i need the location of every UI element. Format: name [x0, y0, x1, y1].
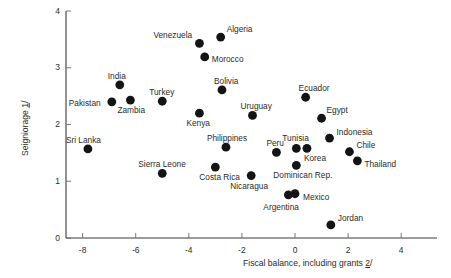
data-point-label: Uruguay	[241, 102, 272, 110]
data-point-marker	[325, 134, 334, 143]
data-point-label: Peru	[266, 139, 284, 147]
y-axis-footnote-suffix: /	[20, 101, 30, 103]
data-point-label: Egypt	[327, 106, 348, 114]
data-point-marker	[272, 148, 281, 157]
y-axis-title-text: Seigniorage	[20, 108, 30, 156]
y-tick-label: 2	[40, 120, 60, 129]
data-point-label: Pakistan	[69, 99, 101, 107]
data-point-marker	[303, 144, 312, 153]
data-point-marker	[248, 111, 257, 120]
x-tick-label: -8	[71, 246, 95, 255]
data-point-marker	[84, 145, 93, 154]
data-point-label: Bolivia	[214, 77, 238, 85]
data-point-marker	[317, 114, 326, 123]
x-tick-label: 4	[389, 246, 413, 255]
x-axis-footnote-suffix: /	[370, 258, 372, 268]
data-point-label: Thailand	[364, 160, 396, 168]
scatter-chart: 01234-8-6-4-2024 VenezuelaAlgeriaMorocco…	[0, 0, 451, 278]
data-point-marker	[107, 97, 116, 106]
data-point-label: Algeria	[227, 25, 253, 33]
data-point-marker	[222, 143, 231, 152]
data-point-marker	[158, 169, 167, 178]
axes	[66, 11, 437, 238]
data-point-marker	[115, 80, 124, 89]
data-point-label: Kenya	[186, 119, 210, 127]
y-axis-footnote-marker: 1	[20, 103, 30, 108]
tick-marks	[66, 11, 401, 238]
data-point-label: Argentina	[263, 203, 299, 211]
data-point-marker	[195, 39, 204, 48]
data-point-label: Sri Lanka	[66, 136, 101, 144]
data-point-marker	[158, 97, 167, 106]
data-point-label: Zambia	[117, 106, 145, 114]
data-point-marker	[301, 93, 310, 102]
data-point-marker	[216, 33, 225, 42]
data-point-label: Morocco	[212, 55, 244, 63]
y-tick-label: 0	[40, 234, 60, 243]
x-tick-label: 2	[336, 246, 360, 255]
data-point-marker	[345, 147, 354, 156]
x-tick-label: 0	[283, 246, 307, 255]
data-point-marker	[292, 144, 301, 153]
data-point-label: Turkey	[149, 88, 174, 96]
y-axis-title: Seigniorage 1/	[21, 76, 30, 180]
data-point-label: Jordan	[338, 214, 363, 222]
data-point-marker	[195, 109, 204, 118]
data-point-label: Indonesia	[337, 128, 373, 136]
data-point-label: Chile	[356, 141, 375, 149]
y-tick-label: 4	[40, 7, 60, 16]
data-point-label: India	[108, 72, 126, 80]
data-point-marker	[353, 156, 362, 165]
data-point-marker	[291, 189, 300, 198]
data-point-label: Korea	[304, 154, 326, 162]
y-tick-label: 1	[40, 177, 60, 186]
x-tick-label: -4	[177, 246, 201, 255]
data-point-label: Mexico	[303, 193, 329, 201]
x-axis-title-text: Fiscal balance, including grants	[243, 258, 365, 268]
data-point-label: Nicaragua	[230, 182, 268, 190]
data-point-label: Venezuela	[153, 31, 192, 39]
data-point-marker	[292, 161, 301, 170]
data-point-marker	[200, 53, 209, 62]
data-point-marker	[126, 96, 135, 105]
data-point-label: Sierra Leone	[138, 160, 186, 168]
x-tick-label: -2	[230, 246, 254, 255]
data-point-label: Philippines	[207, 134, 247, 142]
data-point-marker	[326, 221, 335, 230]
data-point-label: Dominican Rep.	[273, 171, 332, 179]
x-axis-title: Fiscal balance, including grants 2/	[243, 259, 372, 268]
x-tick-label: -6	[124, 246, 148, 255]
y-tick-label: 3	[40, 63, 60, 72]
data-point-marker	[247, 171, 256, 180]
data-point-marker	[211, 163, 220, 172]
data-point-label: Tunisia	[282, 134, 308, 142]
data-point-label: Ecuador	[299, 84, 330, 92]
data-point-marker	[218, 85, 227, 94]
